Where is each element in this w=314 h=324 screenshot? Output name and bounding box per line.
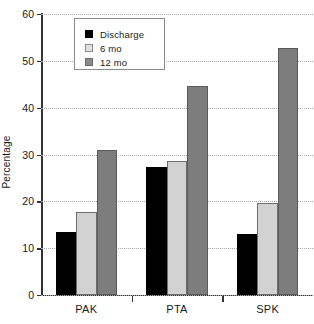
y-tick-mark — [37, 248, 41, 249]
legend-label: 12 mo — [100, 57, 127, 68]
bar-chart: Percentage 0102030405060 PAKPTASPK Disch… — [0, 0, 314, 324]
bar — [146, 167, 167, 295]
y-tick-label: 0 — [28, 289, 34, 301]
y-tick-label: 30 — [22, 149, 34, 161]
y-tick-label: 50 — [22, 55, 34, 67]
y-tick-mark — [37, 61, 41, 62]
x-category-label-spk: SPK — [256, 303, 279, 315]
y-tick-label: 40 — [22, 102, 34, 114]
bar — [76, 212, 97, 295]
bar — [257, 203, 278, 295]
x-category-label-pak: PAK — [75, 303, 97, 315]
x-tick-mark — [222, 296, 223, 302]
y-tick-mark — [37, 14, 41, 15]
legend-item: 12 mo — [85, 56, 127, 68]
y-axis-title: Percentage — [0, 0, 14, 324]
gridline — [41, 155, 313, 156]
y-tick-mark — [37, 295, 41, 296]
legend-swatch-icon — [85, 44, 93, 52]
legend-label: Discharge — [100, 29, 144, 40]
bar — [56, 232, 77, 295]
bar — [278, 48, 299, 295]
legend-item: 6 mo — [85, 42, 122, 54]
gridline — [41, 108, 313, 109]
bar — [187, 86, 208, 295]
x-category-label-pta: PTA — [166, 303, 187, 315]
chart-legend: Discharge6 mo12 mo — [74, 18, 165, 70]
bar — [167, 161, 188, 295]
gridline — [41, 14, 313, 15]
legend-item: Discharge — [85, 28, 144, 40]
y-tick-mark — [37, 108, 41, 109]
y-tick-label: 10 — [22, 242, 34, 254]
legend-swatch-icon — [85, 58, 93, 66]
gridline — [41, 295, 313, 296]
y-tick-label: 20 — [22, 195, 34, 207]
x-tick-mark — [132, 296, 133, 302]
legend-swatch-icon — [85, 30, 93, 38]
y-tick-mark — [37, 201, 41, 202]
y-tick-mark — [37, 155, 41, 156]
bar — [237, 234, 258, 295]
bar — [97, 150, 118, 295]
legend-label: 6 mo — [100, 43, 122, 54]
y-tick-label: 60 — [22, 8, 34, 20]
